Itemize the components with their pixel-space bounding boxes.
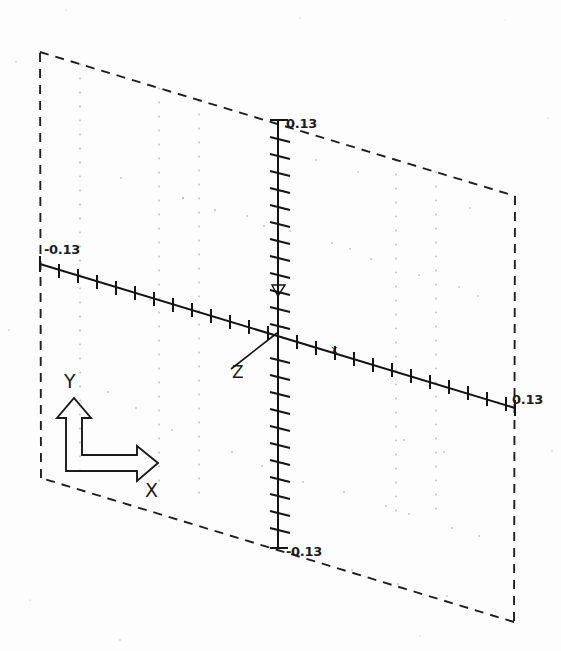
coordinate-plane-diagram: Y X 0.13 -0.13 -0.13 0.13 Z x (0, 0, 561, 651)
diagram-canvas: Y X 0.13 -0.13 -0.13 0.13 Z x (0, 0, 561, 651)
origin-z-label: Z (232, 362, 244, 382)
axis-x-marker-label: x (331, 343, 338, 356)
axis-label-bottom: -0.13 (286, 544, 322, 559)
axis-label-left: -0.13 (44, 242, 80, 257)
triad-y-label: Y (63, 370, 76, 392)
axis-label-right: 0.13 (512, 392, 543, 407)
axis-label-top: 0.13 (286, 116, 317, 131)
triad-x-label: X (145, 479, 158, 501)
paper-background (0, 0, 561, 651)
